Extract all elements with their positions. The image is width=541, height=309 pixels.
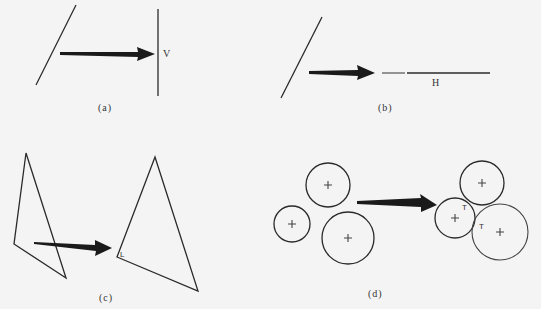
panel-d: T T (d) bbox=[274, 161, 528, 300]
center-mark-icon bbox=[451, 214, 459, 222]
caption-b: (b) bbox=[378, 102, 393, 114]
center-mark-icon bbox=[288, 220, 296, 228]
oblique-line bbox=[281, 17, 322, 98]
diagram-canvas: V (a) H (b) L (c) T T (d bbox=[0, 0, 541, 309]
triangle-original bbox=[14, 153, 66, 278]
label-v: V bbox=[163, 48, 171, 59]
panel-a: V (a) bbox=[36, 5, 171, 114]
triangle-adjusted bbox=[117, 157, 198, 291]
arrow-icon bbox=[309, 65, 375, 80]
panel-b: H (b) bbox=[281, 17, 490, 114]
center-mark-icon bbox=[478, 179, 486, 187]
label-h: H bbox=[432, 77, 439, 88]
arrow-icon bbox=[357, 194, 437, 212]
oblique-line bbox=[36, 5, 76, 85]
tangent-mark-1: T bbox=[462, 203, 467, 212]
tangent-mark-2: T bbox=[479, 222, 484, 231]
caption-c: (c) bbox=[99, 292, 113, 304]
arrow-icon bbox=[34, 240, 112, 256]
center-mark-icon bbox=[344, 234, 352, 242]
caption-d: (d) bbox=[368, 288, 383, 300]
right-angle-mark: L bbox=[120, 250, 125, 259]
center-mark-icon bbox=[496, 228, 504, 236]
caption-a: (a) bbox=[98, 102, 112, 114]
arrow-icon bbox=[60, 47, 155, 61]
panel-c: L (c) bbox=[14, 153, 198, 304]
center-mark-icon bbox=[324, 181, 332, 189]
